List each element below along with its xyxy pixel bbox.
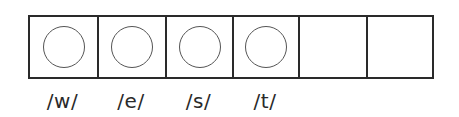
circle-icon bbox=[43, 26, 85, 68]
sound-box-grid bbox=[28, 15, 434, 79]
phoneme-label-4: /t/ bbox=[232, 88, 298, 114]
sound-box-1 bbox=[30, 17, 99, 77]
circle-icon bbox=[245, 26, 287, 68]
phoneme-label-1: /w/ bbox=[28, 88, 97, 114]
sound-box-6 bbox=[368, 17, 432, 77]
circle-icon bbox=[111, 26, 153, 68]
circle-icon bbox=[179, 26, 221, 68]
sound-box-5 bbox=[300, 17, 368, 77]
sound-box-4 bbox=[234, 17, 300, 77]
sound-box-3 bbox=[167, 17, 234, 77]
phoneme-label-2: /e/ bbox=[97, 88, 165, 114]
phoneme-label-3: /s/ bbox=[165, 88, 232, 114]
sound-box-2 bbox=[99, 17, 167, 77]
phoneme-labels: /w/ /e/ /s/ /t/ bbox=[28, 88, 434, 114]
